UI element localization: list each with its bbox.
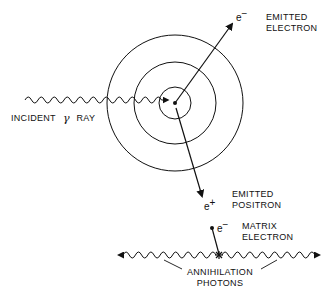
annihilation-photon-left [119,252,216,258]
emitted-positron-symbol: e+ [204,197,216,212]
annihilation-label-line2: PHOTONS [197,278,243,288]
annihilation-star-icon [215,251,223,259]
annihilation-photon-right [222,252,319,258]
emitted-electron-symbol: e− [236,8,248,23]
emitted-positron-label-line1: EMITTED [232,189,274,199]
annihilation-label-line1: ANNIHILATION [187,267,253,277]
matrix-electron-label-line1: MATRIX [242,221,277,231]
emitted-positron-arrow [176,108,202,196]
annihilation-leader-right [261,260,277,269]
incident-ray-label: INCIDENT γ RAY [11,107,95,125]
incident-gamma-ray-wave [25,97,168,103]
diagram-canvas: INCIDENT γ RAY e− EMITTED ELECTRON e+ EM… [0,0,335,297]
emitted-electron-label-line1: EMITTED [266,12,308,22]
emitted-positron-label-line2: POSITRON [232,200,281,210]
emitted-electron-label-line2: ELECTRON [266,23,317,33]
annihilation-leader-left [164,260,182,269]
matrix-electron-symbol: e− [217,219,229,234]
matrix-electron-label-line2: ELECTRON [242,232,293,242]
